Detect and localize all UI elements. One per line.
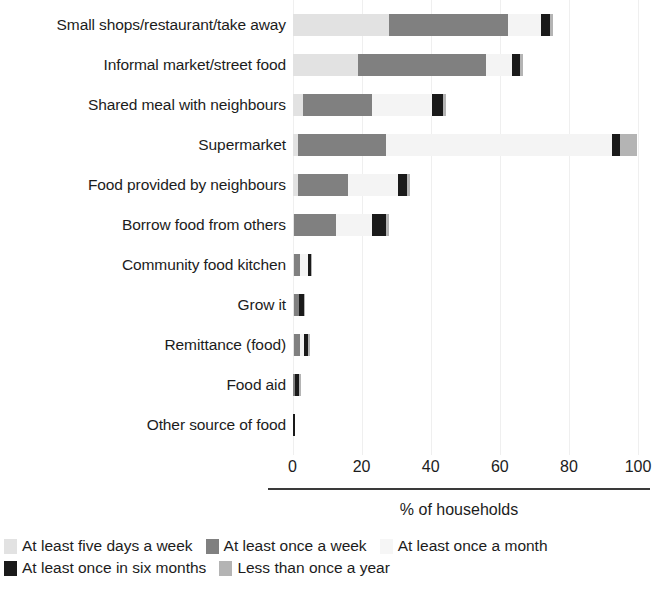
plot-area: Small shops/restaurant/take awayInformal… [0, 0, 659, 455]
bar-row: Remittance (food) [0, 325, 659, 365]
bar-segment [293, 94, 303, 116]
stacked-bar [290, 414, 659, 436]
bar-segment [386, 214, 389, 236]
bar-segment [300, 254, 308, 276]
legend-item: At least five days a week [4, 537, 193, 555]
bar-segment [512, 54, 520, 76]
category-label: Remittance (food) [0, 336, 290, 354]
bar-segment [299, 374, 300, 396]
bar-segment [303, 94, 372, 116]
bar-segment [443, 94, 446, 116]
x-tick-label: 0 [288, 458, 297, 476]
bar-row: Informal market/street food [0, 45, 659, 85]
category-label: Borrow food from others [0, 216, 290, 234]
stacked-bar [290, 54, 659, 76]
category-label: Community food kitchen [0, 256, 290, 274]
bar-segment [520, 54, 523, 76]
category-label: Food provided by neighbours [0, 176, 290, 194]
legend-row: At least once in six monthsLess than onc… [4, 557, 659, 579]
bar-segment [308, 334, 309, 356]
legend-swatch [4, 561, 17, 576]
bar-segment [348, 174, 398, 196]
category-label: Small shops/restaurant/take away [0, 16, 290, 34]
category-label: Supermarket [0, 136, 290, 154]
bar-row: Supermarket [0, 125, 659, 165]
bar-segment [294, 214, 335, 236]
bar-segment [541, 14, 550, 36]
legend-row: At least five days a weekAt least once a… [4, 535, 659, 557]
bar-segment [293, 414, 295, 436]
bar-segment [293, 54, 359, 76]
category-label: Shared meal with neighbours [0, 96, 290, 114]
category-label: Other source of food [0, 416, 290, 434]
stacked-bar [290, 294, 659, 316]
legend-swatch [219, 561, 232, 576]
legend-label: At least five days a week [22, 537, 193, 555]
bar-segment [372, 94, 432, 116]
stacked-bar [290, 94, 659, 116]
bar-segment [389, 14, 508, 36]
bar-segment [293, 14, 390, 36]
bar-segment [358, 54, 486, 76]
bar-segment [298, 134, 386, 156]
legend-label: Less than once a year [237, 559, 390, 577]
bar-row: Other source of food [0, 405, 659, 445]
stacked-bar [290, 214, 659, 236]
x-axis-line [268, 488, 650, 490]
bar-segment [304, 294, 305, 316]
stacked-bar [290, 134, 659, 156]
stacked-bar [290, 14, 659, 36]
bar-row: Shared meal with neighbours [0, 85, 659, 125]
bar-segment [508, 14, 541, 36]
bar-row: Small shops/restaurant/take away [0, 5, 659, 45]
legend-item: At least once a week [206, 537, 367, 555]
x-tick-label: 80 [560, 458, 578, 476]
legend: At least five days a weekAt least once a… [4, 535, 659, 579]
bar-segment [294, 254, 301, 276]
legend-item: At least once in six months [4, 559, 206, 577]
bar-chart: Small shops/restaurant/take awayInformal… [0, 0, 659, 599]
bar-segment [386, 134, 612, 156]
bar-segment [486, 54, 512, 76]
x-tick-label: 40 [422, 458, 440, 476]
stacked-bar [290, 334, 659, 356]
legend-item: At least once a month [380, 537, 548, 555]
bar-row: Community food kitchen [0, 245, 659, 285]
legend-swatch [206, 539, 219, 554]
legend-label: At least once a month [398, 537, 548, 555]
bar-segment [311, 254, 312, 276]
stacked-bar [290, 254, 659, 276]
legend-label: At least once in six months [22, 559, 206, 577]
legend-swatch [380, 539, 393, 554]
legend-label: At least once a week [224, 537, 367, 555]
bar-segment [372, 214, 386, 236]
stacked-bar [290, 374, 659, 396]
x-axis-title: % of households [268, 501, 650, 519]
bar-segment [550, 14, 552, 36]
legend-item: Less than once a year [219, 559, 390, 577]
x-tick-label: 100 [625, 458, 652, 476]
stacked-bar [290, 174, 659, 196]
x-tick-label: 60 [491, 458, 509, 476]
bar-row: Grow it [0, 285, 659, 325]
category-label: Food aid [0, 376, 290, 394]
bar-segment [612, 134, 620, 156]
bar-row: Food aid [0, 365, 659, 405]
bar-row: Borrow food from others [0, 205, 659, 245]
category-label: Informal market/street food [0, 56, 290, 74]
bar-segment [336, 214, 372, 236]
bar-segment [432, 94, 442, 116]
bar-segment [398, 174, 407, 196]
bar-segment [620, 134, 637, 156]
bar-row: Food provided by neighbours [0, 165, 659, 205]
category-label: Grow it [0, 296, 290, 314]
bar-segment [407, 174, 410, 196]
bar-segment [298, 174, 348, 196]
x-tick-label: 20 [353, 458, 371, 476]
legend-swatch [4, 539, 17, 554]
